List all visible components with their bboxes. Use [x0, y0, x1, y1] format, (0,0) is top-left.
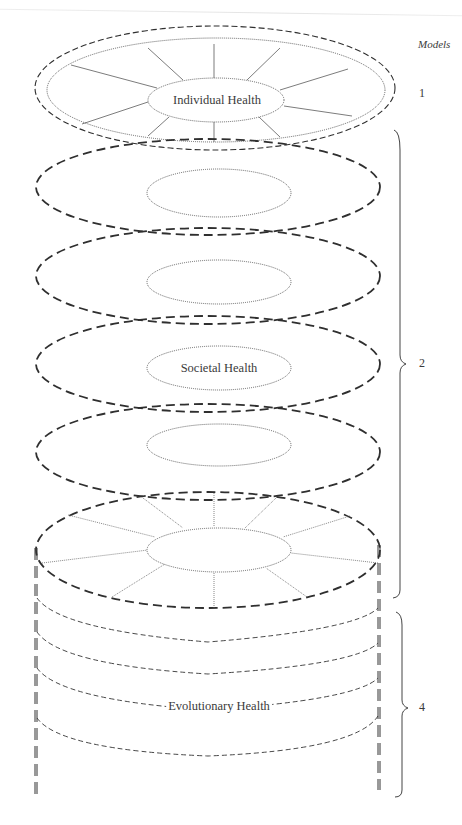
evolutionary-bands	[37, 598, 378, 756]
evolutionary-cylinder-sides	[35, 545, 380, 795]
model-number-1: 1	[419, 86, 425, 101]
individual-health-disc	[35, 26, 395, 150]
bracket-model-2	[393, 130, 406, 598]
individual-health-label: Individual Health	[173, 93, 261, 108]
societal-health-label: Societal Health	[181, 361, 258, 376]
evolutionary-health-label: Evolutionary Health	[166, 699, 272, 714]
models-header: Models	[418, 38, 450, 50]
societal-base-center	[147, 528, 291, 572]
model-number-2: 2	[419, 356, 425, 371]
bracket-model-4	[395, 612, 408, 797]
model-number-4: 4	[419, 700, 425, 715]
